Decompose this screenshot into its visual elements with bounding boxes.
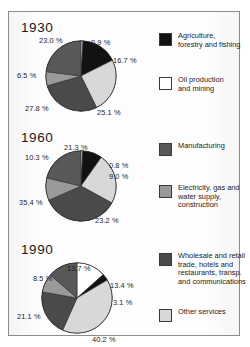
- pie-value-label: 9.0 %: [109, 172, 128, 181]
- legend-label: Manufacturing: [178, 142, 250, 151]
- pie-value-label: 0.8 %: [109, 161, 128, 170]
- legend-label-line: Other services: [178, 308, 250, 317]
- legend-swatch-wholesale: [159, 253, 172, 266]
- pie-value-label: 8.5 %: [33, 274, 52, 283]
- pie-chart-1960: [45, 150, 117, 222]
- pie-svg-1930: [45, 40, 117, 112]
- figure-frame: 1930 1960 1990 0.9 %16.7 %25.1 %27.8: [8, 11, 240, 336]
- panel-year-1930: 1930: [21, 20, 53, 35]
- legend-label: Electricity, gas andwater supply,constru…: [178, 184, 250, 210]
- legend-item: Other services: [159, 308, 250, 322]
- legend-label-line: construction: [178, 201, 250, 210]
- legend-label: Other services: [178, 308, 250, 317]
- pie-value-label: 6.5 %: [17, 71, 36, 80]
- pie-value-label: 0.9 %: [91, 38, 110, 47]
- legend-item: Electricity, gas andwater supply,constru…: [159, 184, 250, 210]
- legend-label: Agriculture,forestry and fishing: [178, 32, 250, 49]
- pie-value-label: 25.1 %: [97, 108, 121, 117]
- pie-value-label: 3.1 %: [113, 298, 132, 307]
- pie-value-label: 13.4 %: [110, 281, 134, 290]
- legend-swatch-other: [159, 309, 172, 322]
- panel-year-1990: 1990: [21, 242, 53, 257]
- legend-swatch-oil: [159, 77, 172, 90]
- legend-swatch-agriculture: [159, 33, 172, 46]
- pie-value-label: 10.3 %: [25, 153, 49, 162]
- legend-item: Agriculture,forestry and fishing: [159, 32, 250, 49]
- pie-value-label: 23.0 %: [39, 36, 63, 45]
- legend-label-line: and communications: [178, 278, 250, 287]
- legend-label-line: Manufacturing: [178, 142, 250, 151]
- legend-label: Oil productionand mining: [178, 76, 250, 93]
- panel-year-1960: 1960: [21, 130, 53, 145]
- legend-label: Wholesale and retailtrade, hotels andres…: [178, 252, 250, 286]
- pie-value-label: 21.1 %: [17, 312, 41, 321]
- pie-value-label: 23.2 %: [95, 216, 119, 225]
- pie-value-label: 21.3 %: [64, 143, 88, 152]
- pie-value-label: 13.7 %: [67, 264, 91, 273]
- pie-chart-1930: [45, 40, 117, 112]
- pie-value-label: 27.8 %: [25, 104, 49, 113]
- pie-svg-1960: [45, 150, 117, 222]
- legend-label-line: and mining: [178, 85, 250, 94]
- legend-swatch-manufacturing: [159, 143, 172, 156]
- pie-slice: [46, 41, 81, 76]
- legend-item: Wholesale and retailtrade, hotels andres…: [159, 252, 250, 286]
- legend-swatch-electricity: [159, 185, 172, 198]
- legend-item: Oil productionand mining: [159, 76, 250, 93]
- pie-value-label: 16.7 %: [113, 56, 137, 65]
- legend-label-line: forestry and fishing: [178, 41, 250, 50]
- legend-item: Manufacturing: [159, 142, 250, 156]
- pie-value-label: 40.2 %: [92, 335, 116, 344]
- pie-value-label: 35.4 %: [19, 198, 43, 207]
